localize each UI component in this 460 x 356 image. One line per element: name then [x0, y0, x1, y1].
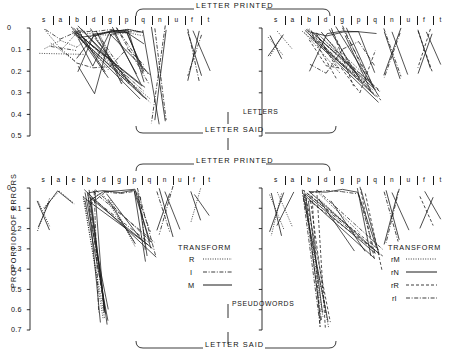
x-tick-separator-top-left-0: [53, 16, 54, 25]
x-tick-separator-top-right-1: [301, 16, 302, 25]
x-tick-separator-top-right-7: [400, 16, 401, 25]
header-letter-said-middle: LETTER SAID: [205, 125, 264, 134]
y-tick-label-top-left-1: 0.1: [11, 45, 22, 54]
x-tick-separator-top-left-2: [86, 16, 87, 25]
header-letter-said-bottom: LETTER SAID: [205, 340, 264, 349]
y-tick-label-bottom-left-7: 0.7: [11, 325, 22, 334]
x-tick-separator-bottom-left-8: [173, 176, 174, 185]
x-tick-label-top-left-q: q: [141, 16, 145, 23]
x-tick-label-top-right-q: q: [373, 16, 377, 23]
x-tick-separator-bottom-left-5: [127, 176, 128, 185]
y-tick-label-top-left-5: 0.5: [11, 131, 22, 140]
x-tick-label-top-left-f: f: [191, 16, 193, 23]
x-tick-separator-bottom-left-1: [66, 176, 67, 185]
x-tick-separator-bottom-right-7: [400, 176, 401, 185]
y-tick-label-top-left-2: 0.2: [11, 67, 22, 76]
x-tick-separator-bottom-left-2: [82, 176, 83, 185]
x-tick-label-top-left-s: s: [42, 16, 45, 23]
x-tick-label-top-right-b: b: [307, 16, 311, 23]
figure-container: 00.10.20.30.40.5sabdgpqnuftsabdgpqnuft00…: [0, 0, 460, 356]
x-tick-label-bottom-right-u: u: [406, 176, 410, 183]
x-tick-label-bottom-left-p: p: [132, 176, 136, 183]
x-tick-label-bottom-left-s: s: [41, 176, 44, 183]
x-tick-label-bottom-left-e: e: [72, 176, 76, 183]
x-tick-label-bottom-right-a: a: [291, 176, 295, 183]
x-tick-label-top-right-s: s: [274, 16, 277, 23]
x-tick-label-top-left-p: p: [125, 16, 129, 23]
x-tick-label-bottom-left-f: f: [193, 176, 195, 183]
x-tick-label-top-left-n: n: [158, 16, 162, 23]
x-tick-label-bottom-left-q: q: [148, 176, 152, 183]
x-tick-separator-top-left-4: [119, 16, 120, 25]
x-tick-separator-top-left-8: [185, 16, 186, 25]
legend-left-key-1: I: [190, 268, 192, 277]
header-letter-printed-top: LETTER PRINTED: [196, 1, 274, 10]
x-tick-label-top-right-a: a: [291, 16, 295, 23]
x-tick-separator-top-left-9: [201, 16, 202, 25]
x-tick-separator-top-right-9: [433, 16, 434, 25]
legend-left-key-0: R: [189, 255, 194, 264]
x-tick-label-bottom-left-d: d: [102, 176, 106, 183]
x-tick-separator-top-right-0: [285, 16, 286, 25]
x-tick-label-bottom-right-s: s: [274, 176, 277, 183]
y-tick-label-top-left-0: 0: [7, 23, 11, 32]
y-tick-label-bottom-left-6: 0.6: [11, 305, 22, 314]
x-tick-label-top-right-f: f: [423, 16, 425, 23]
x-tick-separator-top-left-1: [69, 16, 70, 25]
x-tick-separator-bottom-right-5: [367, 176, 368, 185]
x-tick-label-bottom-right-b: b: [307, 176, 311, 183]
x-tick-separator-top-left-5: [135, 16, 136, 25]
row-label-letters: LETTERS: [243, 108, 279, 115]
x-tick-separator-top-right-6: [384, 16, 385, 25]
x-tick-label-bottom-left-a: a: [57, 176, 61, 183]
x-tick-separator-bottom-left-4: [112, 176, 113, 185]
x-tick-separator-bottom-left-9: [188, 176, 189, 185]
x-tick-label-bottom-left-t: t: [208, 176, 210, 183]
x-tick-separator-top-right-3: [334, 16, 335, 25]
x-tick-label-bottom-right-t: t: [440, 176, 442, 183]
x-tick-separator-bottom-right-3: [334, 176, 335, 185]
x-tick-label-bottom-left-n: n: [163, 176, 167, 183]
legend-right-key-1: rN: [391, 268, 399, 277]
x-tick-label-bottom-left-b: b: [87, 176, 91, 183]
legend-right-key-3: rI: [392, 294, 397, 303]
row-label-pseudowords: PSEUDOWORDS: [232, 300, 294, 307]
header-letter-printed-middle: LETTER PRINTED: [196, 156, 274, 165]
x-tick-separator-bottom-right-2: [318, 176, 319, 185]
legend-right-key-2: rR: [391, 281, 399, 290]
legend-left-title: TRANSFORM: [178, 243, 231, 252]
x-tick-separator-top-right-4: [351, 16, 352, 25]
x-tick-separator-bottom-right-6: [384, 176, 385, 185]
x-tick-separator-bottom-right-1: [301, 176, 302, 185]
x-tick-label-bottom-left-g: g: [117, 176, 121, 183]
x-tick-label-top-right-p: p: [357, 16, 361, 23]
x-tick-separator-bottom-right-9: [433, 176, 434, 185]
x-tick-label-top-right-t: t: [440, 16, 442, 23]
x-tick-label-top-left-t: t: [208, 16, 210, 23]
x-tick-label-bottom-right-g: g: [340, 176, 344, 183]
x-tick-label-bottom-left-u: u: [178, 176, 182, 183]
x-tick-separator-bottom-right-4: [351, 176, 352, 185]
x-tick-separator-top-left-3: [102, 16, 103, 25]
plot-strokes: [37, 26, 441, 328]
legend-left-key-2: M: [188, 281, 194, 290]
y-tick-label-top-left-4: 0.4: [11, 110, 22, 119]
x-tick-label-bottom-right-q: q: [373, 176, 377, 183]
y-axis-title: PROPORTION OF ERRORS: [9, 173, 18, 288]
x-tick-label-top-left-a: a: [59, 16, 63, 23]
x-tick-label-bottom-right-p: p: [357, 176, 361, 183]
x-tick-label-bottom-right-f: f: [423, 176, 425, 183]
x-tick-separator-top-right-8: [417, 16, 418, 25]
x-tick-separator-top-right-5: [367, 16, 368, 25]
x-tick-label-top-left-d: d: [92, 16, 96, 23]
x-tick-label-bottom-right-d: d: [324, 176, 328, 183]
x-tick-separator-bottom-right-0: [285, 176, 286, 185]
legend-right-key-0: rM: [391, 255, 400, 264]
x-tick-label-top-left-b: b: [75, 16, 79, 23]
x-tick-separator-bottom-right-8: [417, 176, 418, 185]
x-tick-label-top-right-u: u: [406, 16, 410, 23]
x-tick-separator-bottom-left-3: [97, 176, 98, 185]
x-tick-label-top-right-n: n: [390, 16, 394, 23]
x-tick-separator-bottom-left-0: [51, 176, 52, 185]
x-tick-label-top-left-g: g: [108, 16, 112, 23]
